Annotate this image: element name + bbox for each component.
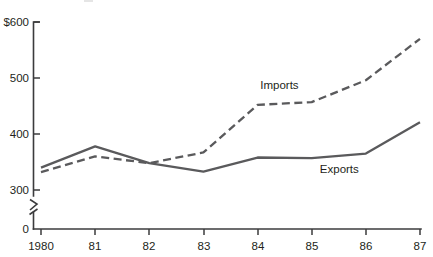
x-axis-label-86: 86 <box>360 240 373 252</box>
chart-container: $600 500 400 300 0 1980 81 82 83 84 85 8… <box>0 0 433 257</box>
x-axis-label-83: 83 <box>198 240 211 252</box>
x-axis-label-81: 81 <box>89 240 102 252</box>
line-chart: $600 500 400 300 0 1980 81 82 83 84 85 8… <box>0 0 433 257</box>
y-axis-line <box>34 22 40 196</box>
series-line-imports <box>41 39 420 172</box>
y-axis-label-400: 400 <box>10 128 29 140</box>
y-axis-label-500: 500 <box>10 72 29 84</box>
x-axis-label-82: 82 <box>143 240 156 252</box>
series-label-imports: Imports <box>260 79 299 91</box>
crop-artifact <box>84 0 93 2</box>
x-axis-label-85: 85 <box>306 240 319 252</box>
x-axis-label-87: 87 <box>414 240 427 252</box>
x-axis-label-1980: 1980 <box>28 240 54 252</box>
x-axis-label-84: 84 <box>252 240 265 252</box>
y-axis-label-300: 300 <box>10 184 29 196</box>
y-axis-label-0: 0 <box>23 223 29 235</box>
y-axis-break-icon <box>30 200 37 211</box>
y-axis-label-600: $600 <box>3 16 29 28</box>
series-label-exports: Exports <box>320 163 359 175</box>
